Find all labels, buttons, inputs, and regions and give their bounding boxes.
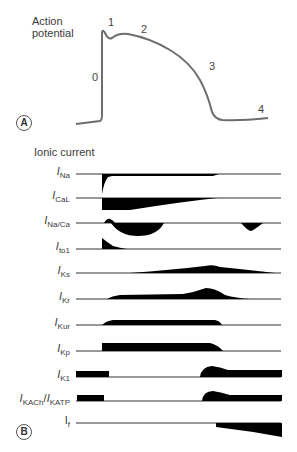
ito1-waveform bbox=[102, 238, 127, 249]
inaca-waveform bbox=[104, 219, 263, 236]
action-potential-trace bbox=[76, 31, 268, 124]
iks-waveform bbox=[130, 265, 275, 273]
ical-waveform bbox=[102, 198, 217, 210]
diagram-canvas bbox=[0, 0, 297, 452]
if-waveform bbox=[216, 423, 282, 437]
ik1-waveform bbox=[76, 366, 282, 377]
ikr-waveform bbox=[107, 288, 250, 299]
ikur-waveform bbox=[102, 320, 222, 325]
ikp-waveform bbox=[102, 343, 223, 351]
ikach-waveform bbox=[77, 391, 282, 401]
ina-waveform bbox=[102, 174, 219, 194]
